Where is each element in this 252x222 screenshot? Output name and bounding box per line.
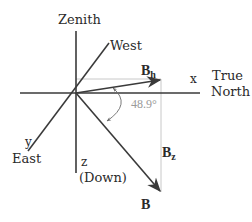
b-label: B: [141, 197, 150, 212]
down-label: (Down): [79, 170, 127, 185]
bz-label: Bz: [162, 145, 176, 162]
x-axis-label: x: [190, 72, 197, 86]
bh-label-main: B: [141, 63, 150, 78]
west-label: West: [110, 38, 143, 53]
east-label: East: [12, 151, 42, 166]
bh-vector-arrow: [76, 80, 160, 93]
bh-label: Bh: [141, 63, 156, 80]
west-east-axis: [28, 43, 109, 151]
y-axis-label: y: [24, 135, 32, 149]
inclination-angle-label: 48.9°: [131, 97, 157, 111]
z-axis-label: z: [81, 155, 87, 169]
magnetic-field-diagram: Zenith West x True North y East z (Down)…: [0, 0, 252, 222]
bh-label-subscript: h: [150, 69, 156, 80]
north-label: North: [211, 84, 251, 99]
bz-label-subscript: z: [171, 151, 176, 162]
zenith-label: Zenith: [58, 12, 101, 27]
true-label: True: [212, 68, 243, 83]
bz-label-main: B: [162, 145, 171, 160]
